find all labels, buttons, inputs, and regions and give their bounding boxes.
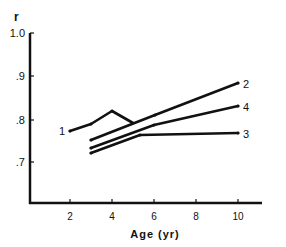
series-3-label: 3 (243, 128, 249, 140)
series-4-label: 4 (243, 101, 249, 113)
x-tick-label: 8 (193, 211, 199, 222)
x-axis-title: Age (yr) (130, 228, 180, 240)
y-tick-label: .9 (16, 70, 25, 82)
series-2-label: 2 (243, 78, 249, 90)
y-tick-label: .8 (16, 114, 25, 126)
series-1-label: 1 (59, 125, 65, 137)
y-tick-label: .7 (16, 156, 25, 168)
series-3-line (91, 133, 238, 153)
y-tick-label: 1.0 (10, 27, 25, 39)
x-tick-label: 4 (109, 211, 115, 222)
x-tick-label: 10 (232, 211, 244, 222)
line-chart: r 1.0 .9 .8 .7 2 4 6 8 10 Age (yr) 1 2 4… (0, 0, 286, 247)
y-axis-title: r (14, 10, 19, 24)
x-tick-label: 2 (67, 211, 73, 222)
x-tick-label: 6 (151, 211, 157, 222)
